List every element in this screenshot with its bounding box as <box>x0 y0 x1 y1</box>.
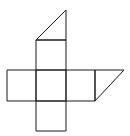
bottom-square <box>36 101 66 131</box>
left-square <box>7 70 36 101</box>
right-parallelogram <box>95 70 124 101</box>
top-square <box>36 40 66 70</box>
prism-net-diagram <box>0 0 130 136</box>
right-square <box>66 70 95 101</box>
top-triangle <box>36 10 66 40</box>
center-square <box>36 70 66 101</box>
